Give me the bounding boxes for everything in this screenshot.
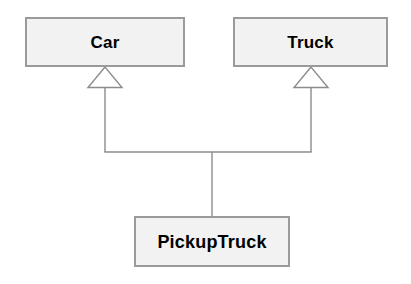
generalization-arrowhead-car xyxy=(88,67,122,88)
uml-diagram-canvas: Car Truck PickupTruck xyxy=(0,0,411,284)
class-box-car[interactable]: Car xyxy=(25,17,185,67)
class-name-truck: Truck xyxy=(287,34,333,51)
class-name-pickuptruck: PickupTruck xyxy=(157,233,266,251)
class-box-pickuptruck[interactable]: PickupTruck xyxy=(134,216,290,267)
generalization-arrowhead-truck xyxy=(294,67,328,88)
class-box-truck[interactable]: Truck xyxy=(233,17,388,67)
class-name-car: Car xyxy=(91,34,120,51)
